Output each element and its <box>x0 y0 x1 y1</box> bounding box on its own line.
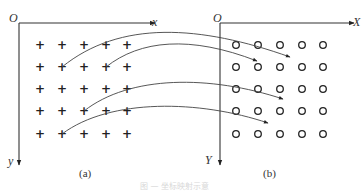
mapping-arrow-4 <box>62 106 268 134</box>
plus-marker: + <box>101 82 111 96</box>
circle-marker <box>233 64 240 71</box>
mapping-arrow-1 <box>62 32 290 67</box>
plus-marker: + <box>35 104 45 118</box>
origin-label-b: O <box>213 11 222 25</box>
circle-marker <box>299 86 306 93</box>
circle-marker <box>277 108 284 115</box>
plus-marker: + <box>35 60 45 74</box>
circle-marker <box>255 131 262 138</box>
plus-marker: + <box>122 38 132 52</box>
plus-marker: + <box>35 82 45 96</box>
plus-marker: + <box>57 104 67 118</box>
panel-b-axes: O X Y (b) <box>205 11 361 180</box>
plus-marker: + <box>79 127 89 141</box>
plus-marker: + <box>122 60 132 74</box>
mapping-diagram: O x y (a) +++++++++++++++++++++++++ O X … <box>0 0 364 191</box>
circle-marker <box>255 64 262 71</box>
plus-marker: + <box>101 38 111 52</box>
subcaption-a: (a) <box>79 167 92 180</box>
x-axis-label-b: X <box>352 15 361 29</box>
circle-marker <box>299 64 306 71</box>
circle-marker <box>277 64 284 71</box>
circle-marker <box>233 131 240 138</box>
circle-marker <box>255 108 262 115</box>
plus-marker: + <box>122 104 132 118</box>
circle-marker <box>320 64 327 71</box>
circle-marker <box>320 108 327 115</box>
circle-marker <box>277 42 284 49</box>
y-axis-label-a: y <box>7 154 14 168</box>
circle-marker <box>320 131 327 138</box>
figure-caption: 图 — 坐标映射示意 <box>140 181 209 191</box>
plus-marker: + <box>79 82 89 96</box>
plus-marker: + <box>57 38 67 52</box>
circle-marker <box>277 131 284 138</box>
circle-marker <box>299 131 306 138</box>
plus-grid: +++++++++++++++++++++++++ <box>35 38 132 141</box>
plus-marker: + <box>101 127 111 141</box>
circle-marker <box>233 42 240 49</box>
plus-marker: + <box>57 82 67 96</box>
circle-marker <box>299 108 306 115</box>
subcaption-b: (b) <box>263 167 276 180</box>
plus-marker: + <box>101 104 111 118</box>
x-axis-label-a: x <box>151 15 158 29</box>
circle-marker <box>299 42 306 49</box>
plus-marker: + <box>79 60 89 74</box>
plus-marker: + <box>122 127 132 141</box>
plus-marker: + <box>35 127 45 141</box>
y-axis-label-b: Y <box>205 153 213 167</box>
circle-marker <box>277 86 284 93</box>
plus-marker: + <box>35 38 45 52</box>
circle-marker <box>320 42 327 49</box>
origin-label-a: O <box>9 11 18 25</box>
circle-marker <box>320 86 327 93</box>
